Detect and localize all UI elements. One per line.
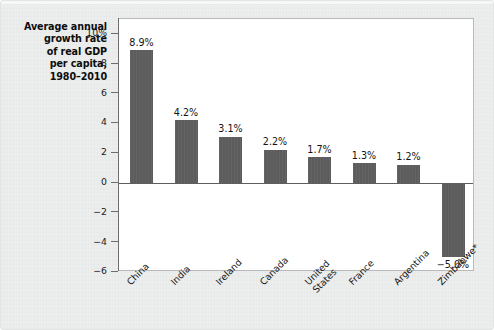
chart-title-line: of real GDP [3, 46, 107, 58]
bar[interactable] [353, 163, 376, 182]
bar-value-label: 3.1% [202, 124, 260, 134]
y-axis-tick-label: 4 [75, 117, 107, 126]
plot-area: 8.9%4.2%3.1%2.2%1.7%1.3%1.2%−5.0% [118, 18, 474, 271]
bar[interactable] [397, 165, 420, 183]
bar-value-label: 8.9% [113, 38, 171, 48]
y-axis-tick-label: −2 [75, 207, 107, 216]
bar[interactable] [175, 120, 198, 183]
bar[interactable] [219, 137, 242, 183]
y-axis-tick [111, 182, 118, 183]
bar[interactable] [442, 183, 465, 257]
y-axis-tick [111, 92, 118, 93]
y-axis-tick-label: 10% [75, 28, 107, 37]
y-axis-tick-label: 8 [75, 58, 107, 67]
y-axis-tick-label: −4 [75, 237, 107, 246]
bar[interactable] [130, 50, 153, 182]
y-axis-tick-label: 6 [75, 88, 107, 97]
y-axis-tick [111, 152, 118, 153]
y-axis-tick-label: 2 [75, 147, 107, 156]
y-axis-tick-label: −6 [75, 266, 107, 275]
plot-inner: 8.9%4.2%3.1%2.2%1.7%1.3%1.2%−5.0% [119, 19, 473, 270]
bar[interactable] [264, 150, 287, 183]
bar-value-label: 1.2% [380, 152, 438, 162]
y-axis-tick-label: 0 [75, 177, 107, 186]
y-axis-tick [111, 241, 118, 242]
chart-title-line: 1980–2010 [3, 71, 107, 83]
chart-figure: Average annual growth rate of real GDP p… [0, 0, 494, 330]
y-axis-line [118, 18, 119, 271]
zero-baseline [119, 183, 473, 184]
y-axis-tick [111, 211, 118, 212]
y-axis-tick [111, 122, 118, 123]
bar-value-label: 4.2% [157, 108, 215, 118]
bar[interactable] [308, 157, 331, 182]
y-axis-tick [111, 63, 118, 64]
y-axis-tick [111, 271, 118, 272]
y-axis-tick [111, 33, 118, 34]
